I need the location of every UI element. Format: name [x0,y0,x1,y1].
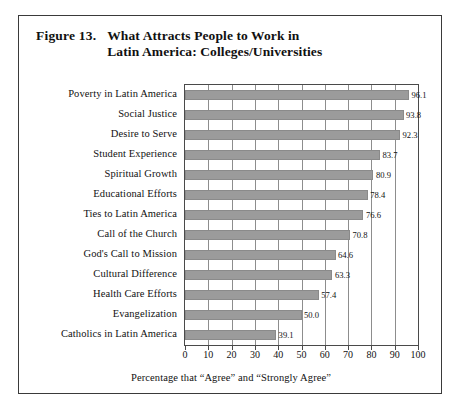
bar [185,110,404,120]
bar-row: 39.1 [185,330,418,340]
bar-row: 93.8 [185,110,418,120]
figure-title-block: Figure 13. What Attracts People to Work … [36,28,428,61]
bar [185,330,276,340]
bar [185,150,380,160]
tick-label: 0 [183,350,188,360]
category-label: Catholics in Latin America [61,329,177,340]
bar [185,190,368,200]
bar-value-label: 78.4 [368,191,386,200]
bar [185,90,409,100]
bar [185,310,302,320]
bar-value-label: 92.3 [400,131,418,140]
bar-row: 96.1 [185,90,418,100]
bar-row: 57.4 [185,290,418,300]
category-axis-labels: Poverty in Latin AmericaSocial JusticeDe… [19,84,183,346]
category-label: Call of the Church [97,229,177,240]
category-label: Evangelization [113,309,177,320]
bar-value-label: 70.8 [350,231,368,240]
bar-chart: Poverty in Latin AmericaSocial JusticeDe… [19,84,443,394]
tick-label: 40 [273,350,283,360]
category-label: Student Experience [93,149,177,160]
bar [185,130,400,140]
bar-row: 70.8 [185,230,418,240]
bar-value-label: 80.9 [373,171,391,180]
bar-row: 50.0 [185,310,418,320]
bar-row: 63.3 [185,270,418,280]
bar [185,270,332,280]
bar-row: 78.4 [185,190,418,200]
bar-row: 83.7 [185,150,418,160]
bar [185,210,363,220]
bar-value-label: 57.4 [319,291,337,300]
bar-value-label: 93.8 [404,111,422,120]
bar [185,250,336,260]
bar [185,230,350,240]
tick-label: 10 [203,350,213,360]
category-label: Spiritual Growth [105,169,177,180]
bar-row: 92.3 [185,130,418,140]
category-label: God's Call to Mission [83,249,177,260]
category-label: Health Care Efforts [93,289,177,300]
x-axis-ticks: 0102030405060708090100 [184,346,419,362]
bar-value-label: 83.7 [380,151,398,160]
tick-label: 80 [366,350,376,360]
category-label: Cultural Difference [93,269,177,280]
bar [185,170,373,180]
tick-label: 30 [250,350,260,360]
category-label: Desire to Serve [111,129,177,140]
tick-label: 70 [343,350,353,360]
bar-value-label: 63.3 [332,271,350,280]
figure-frame: Figure 13. What Attracts People to Work … [18,15,442,394]
bar-value-label: 76.6 [363,211,381,220]
bar-value-label: 50.0 [302,311,320,320]
tick-label: 50 [297,350,307,360]
tick-label: 90 [390,350,400,360]
bar-value-label: 39.1 [276,331,294,340]
bar-value-label: 64.6 [336,251,354,260]
plot-area: 96.193.892.383.780.978.476.670.864.663.3… [184,84,419,346]
category-label: Poverty in Latin America [68,89,177,100]
bar-row: 64.6 [185,250,418,260]
figure-number: Figure 13. [36,28,107,44]
figure-title-line-2: Latin America: Colleges/Universities [107,44,322,60]
category-label: Educational Efforts [93,189,177,200]
category-label: Social Justice [118,109,177,120]
tick-label: 20 [227,350,237,360]
tick-label: 100 [411,350,426,360]
bar-row: 80.9 [185,170,418,180]
figure-title-line-1: What Attracts People to Work in [107,28,322,44]
bar-value-label: 96.1 [409,91,427,100]
category-label: Ties to Latin America [83,209,177,220]
x-axis-title: Percentage that “Agree” and “Strongly Ag… [19,372,443,383]
bar [185,290,319,300]
tick-label: 60 [320,350,330,360]
bar-row: 76.6 [185,210,418,220]
